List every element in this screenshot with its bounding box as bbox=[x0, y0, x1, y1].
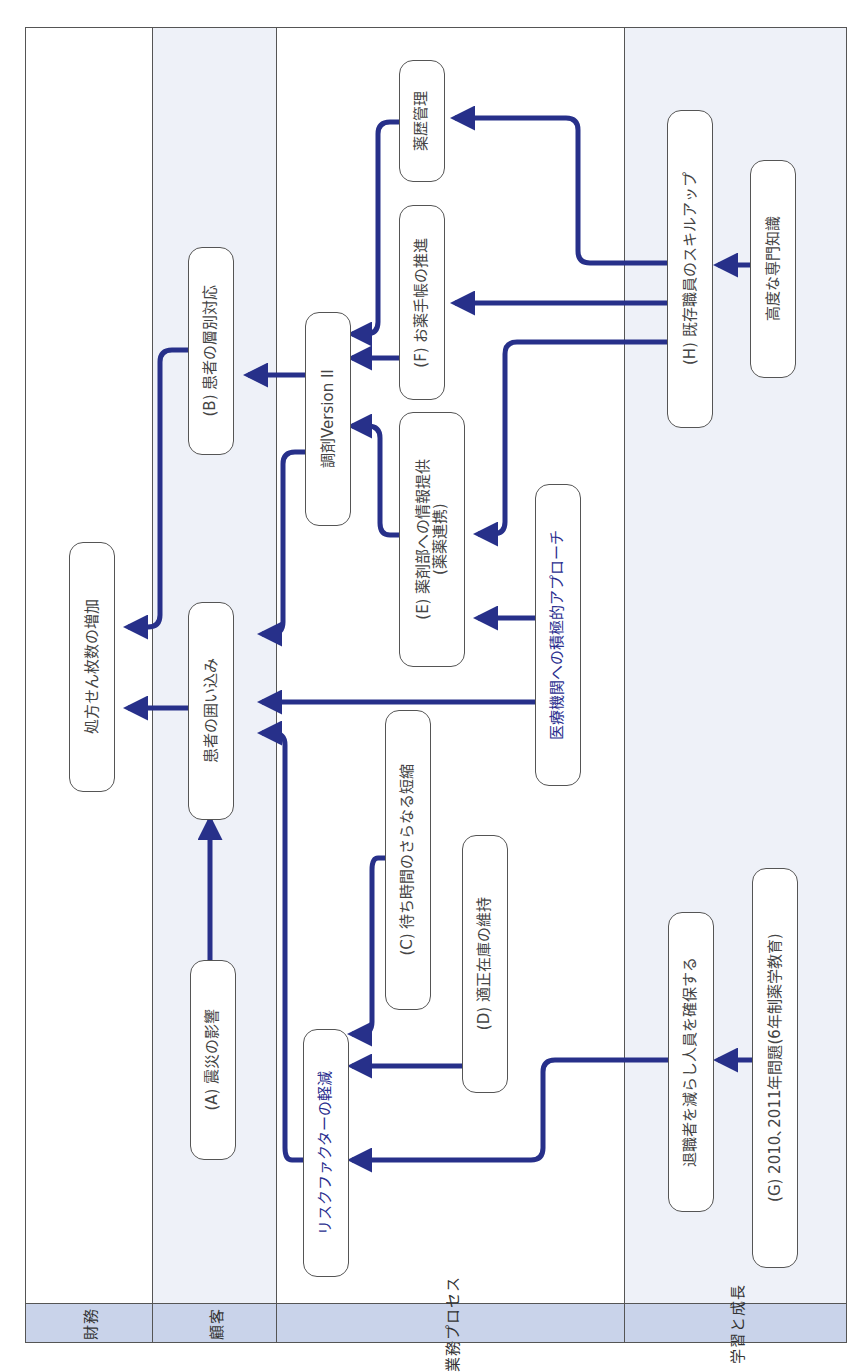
node-label: (H) 既存職員のスキルアップ bbox=[681, 173, 698, 366]
node-label-line2: (薬薬連携) bbox=[432, 459, 449, 620]
node-label: (G) 2010､2011年問題(6年制薬学教育) bbox=[766, 934, 783, 1203]
arrow-history-to-dispensing bbox=[352, 122, 399, 334]
node-wait: (C) 待ち時間のさらなる短縮 bbox=[385, 710, 431, 1010]
node-label: 医療機関への積極的アプローチ bbox=[549, 530, 566, 740]
arrow-wait-to-risk bbox=[352, 858, 385, 1034]
node-label: 薬歴管理 bbox=[413, 91, 430, 151]
arrow-retain-to-risk bbox=[352, 1060, 668, 1160]
node-problem: (G) 2010､2011年問題(6年制薬学教育) bbox=[752, 868, 798, 1268]
node-approach: 医療機関への積極的アプローチ bbox=[535, 484, 581, 786]
node-dispensing: 調剤Version II bbox=[305, 312, 351, 526]
node-history: 薬歴管理 bbox=[399, 60, 445, 182]
node-info: (E) 薬剤部への情報提供(薬薬連携) bbox=[399, 412, 465, 667]
node-label: 処方せん枚数の増加 bbox=[83, 600, 100, 735]
node-retain: 退職者を減らし人員を確保する bbox=[668, 912, 714, 1212]
node-label: (B) 患者の層別対応 bbox=[202, 285, 219, 417]
node-notebook: (F) お薬手帳の推進 bbox=[399, 205, 445, 400]
node-label: リスクファクターの軽減 bbox=[317, 1071, 334, 1235]
arrow-info-to-dispensing bbox=[352, 426, 399, 535]
node-skillup: (H) 既存職員のスキルアップ bbox=[667, 110, 713, 428]
node-label: (C) 待ち時間のさらなる短縮 bbox=[399, 764, 416, 956]
node-label: 患者の囲い込み bbox=[202, 659, 219, 764]
node-label-line1: (E) 薬剤部への情報提供 bbox=[415, 459, 432, 620]
node-expertise: 高度な専門知識 bbox=[750, 160, 796, 378]
node-label: 高度な専門知識 bbox=[764, 217, 781, 322]
node-retention: 患者の囲い込み bbox=[188, 602, 234, 820]
node-label: (E) 薬剤部への情報提供(薬薬連携) bbox=[415, 459, 450, 620]
node-prescriptions: 処方せん枚数の増加 bbox=[69, 542, 115, 792]
node-label: (D) 適正在庫の維持 bbox=[476, 897, 493, 1030]
arrow-skillup-to-history bbox=[455, 118, 667, 263]
node-segment: (B) 患者の層別対応 bbox=[188, 247, 234, 455]
node-risk: リスクファクターの軽減 bbox=[303, 1029, 349, 1277]
arrow-risk-to-retention bbox=[262, 733, 303, 1160]
arrow-dispensing-to-retention bbox=[262, 452, 305, 634]
node-label: (F) お薬手帳の推進 bbox=[413, 237, 430, 367]
node-disaster: (A) 震災の影響 bbox=[190, 960, 236, 1160]
node-inventory: (D) 適正在庫の維持 bbox=[462, 835, 508, 1093]
arrow-segment-to-prescriptions bbox=[128, 350, 188, 627]
node-label: 調剤Version II bbox=[319, 370, 336, 469]
node-label: (A) 震災の影響 bbox=[204, 1009, 221, 1111]
node-label: 退職者を減らし人員を確保する bbox=[682, 957, 699, 1167]
